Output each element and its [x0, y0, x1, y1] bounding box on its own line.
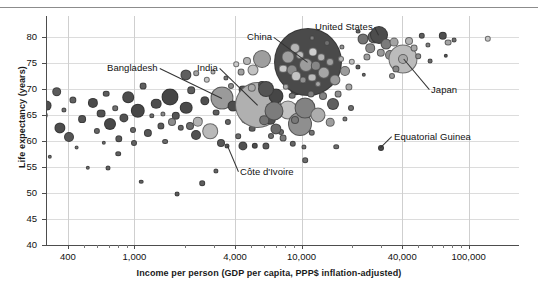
bubble-point[interactable] — [289, 92, 296, 99]
bubble-point[interactable] — [317, 53, 325, 61]
bubble-point[interactable] — [143, 129, 151, 137]
bubble-point[interactable] — [86, 166, 90, 170]
bubble-point[interactable] — [290, 141, 296, 147]
bubble-point[interactable] — [213, 109, 220, 116]
bubble-point[interactable] — [363, 53, 370, 60]
bubble-point[interactable] — [327, 98, 339, 110]
bubble-point[interactable] — [415, 53, 421, 59]
bubble-point[interactable] — [112, 105, 118, 111]
bubble-point[interactable] — [213, 168, 218, 173]
bubble-point[interactable] — [104, 118, 116, 130]
bubble-point[interactable] — [238, 141, 247, 150]
bubble-point[interactable] — [130, 127, 136, 133]
bubble-point[interactable] — [315, 81, 321, 87]
bubble-point[interactable] — [262, 142, 269, 149]
bubble-point[interactable] — [61, 107, 66, 112]
bubble-point[interactable] — [48, 154, 52, 158]
bubble-point[interactable] — [103, 90, 110, 97]
bubble-point[interactable] — [78, 115, 86, 123]
bubble-point[interactable] — [157, 122, 164, 129]
bubble-point[interactable] — [377, 48, 385, 56]
bubble-point[interactable] — [411, 45, 418, 52]
bubble-point[interactable] — [202, 123, 218, 139]
bubble-point[interactable] — [485, 36, 491, 42]
bubble-point[interactable] — [162, 88, 179, 105]
bubble-point[interactable] — [248, 65, 259, 76]
bubble-point[interactable] — [102, 141, 106, 145]
bubble-point[interactable] — [74, 145, 79, 150]
bubble-point[interactable] — [186, 122, 194, 130]
bubble-point[interactable] — [131, 140, 137, 146]
bubble-point[interactable] — [302, 157, 308, 163]
bubble-point[interactable] — [228, 83, 234, 89]
bubble-point[interactable] — [342, 116, 347, 121]
bubble-point[interactable] — [362, 73, 366, 77]
bubble-point[interactable] — [151, 98, 162, 109]
bubble-point[interactable] — [162, 139, 168, 145]
bubble-point[interactable] — [238, 69, 245, 76]
bubble-point[interactable] — [106, 165, 111, 170]
bubble-point[interactable] — [324, 40, 330, 46]
bubble-point[interactable] — [204, 76, 210, 82]
bubble-point[interactable] — [193, 117, 203, 127]
bubble-point[interactable] — [233, 61, 239, 67]
bubble-point[interactable] — [425, 42, 430, 47]
bubble-point[interactable] — [235, 133, 241, 139]
bubble-point[interactable] — [389, 73, 395, 79]
bubble-point[interactable] — [69, 96, 76, 103]
bubble-point[interactable] — [319, 92, 327, 100]
bubble-point[interactable] — [444, 54, 448, 58]
bubble-point[interactable] — [252, 143, 258, 149]
bubble-point[interactable] — [115, 151, 121, 157]
bubble-point[interactable] — [258, 81, 274, 97]
bubble-point[interactable] — [200, 96, 209, 105]
bubble-point[interactable] — [333, 144, 339, 150]
bubble-point[interactable] — [149, 113, 154, 118]
bubble-point[interactable] — [335, 91, 342, 98]
bubble-point[interactable] — [87, 98, 97, 108]
bubble-point[interactable] — [428, 59, 433, 64]
bubble-point[interactable] — [131, 104, 145, 118]
bubble-point[interactable] — [187, 86, 195, 94]
bubble-point[interactable] — [191, 130, 201, 140]
bubble-point[interactable] — [326, 118, 335, 127]
bubble-point[interactable] — [47, 100, 52, 111]
bubble-point[interactable] — [310, 36, 315, 41]
bubble-point[interactable] — [311, 108, 326, 123]
bubble-point[interactable] — [97, 109, 106, 118]
bubble-point[interactable] — [308, 73, 317, 82]
bubble-point[interactable] — [326, 58, 334, 66]
bubble-point[interactable] — [199, 180, 205, 186]
bubble-point[interactable] — [178, 125, 184, 131]
bubble-point[interactable] — [445, 39, 452, 46]
bubble-point[interactable] — [52, 87, 62, 97]
bubble-point[interactable] — [268, 133, 274, 139]
bubble-point[interactable] — [180, 101, 193, 114]
bubble-point[interactable] — [139, 179, 144, 184]
bubble-point[interactable] — [349, 59, 355, 65]
bubble-point[interactable] — [291, 116, 299, 124]
bubble-point[interactable] — [301, 144, 306, 149]
bubble-point[interactable] — [291, 71, 301, 81]
bubble-point[interactable] — [338, 56, 344, 62]
bubble-point[interactable] — [265, 101, 284, 120]
bubble-point[interactable] — [405, 37, 413, 45]
bubble-point[interactable] — [243, 57, 251, 65]
bubble-point[interactable] — [94, 128, 100, 134]
bubble-point[interactable] — [140, 83, 147, 90]
bubble-point[interactable] — [340, 66, 350, 76]
bubble-point[interactable] — [175, 192, 180, 197]
bubble-point[interactable] — [64, 132, 74, 142]
bubble-point[interactable] — [348, 105, 354, 111]
bubble-point[interactable] — [225, 119, 231, 125]
bubble-point[interactable] — [122, 91, 134, 103]
bubble-point[interactable] — [168, 118, 176, 126]
bubble-point[interactable] — [119, 113, 128, 122]
bubble-point[interactable] — [280, 135, 287, 142]
bubble-point[interactable] — [355, 64, 360, 69]
bubble-point[interactable] — [365, 43, 375, 53]
bubble-point[interactable] — [307, 90, 314, 97]
bubble-point[interactable] — [339, 44, 344, 49]
bubble-point[interactable] — [309, 129, 315, 135]
bubble-point[interactable] — [329, 74, 340, 85]
